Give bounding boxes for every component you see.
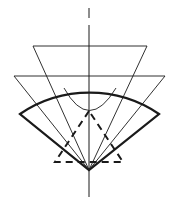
diagram-canvas — [0, 0, 177, 197]
geometric-diagram — [0, 0, 177, 197]
